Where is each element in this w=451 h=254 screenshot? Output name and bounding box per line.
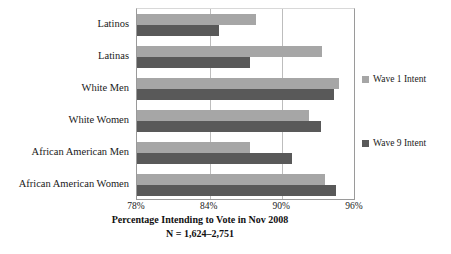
legend-swatch-wave-1-icon (362, 76, 369, 83)
category-label-latinos: Latinos (1, 18, 129, 29)
x-tick-90: 90% (273, 201, 290, 211)
bar-wave9-african-american-men (137, 153, 292, 164)
bar-wave9-latinos (137, 25, 219, 36)
legend-item-wave-1: Wave 1 Intent (362, 74, 426, 84)
legend-label-wave-9: Wave 9 Intent (373, 138, 426, 148)
category-label-african-american-women: African American Women (1, 178, 129, 189)
gridline-90 (282, 9, 283, 199)
category-axis-labels: Latinos Latinas White Men White Women Af… (0, 8, 133, 200)
category-label-african-american-men: African American Men (1, 146, 129, 157)
x-tick-96: 96% (345, 201, 362, 211)
category-label-white-men: White Men (1, 82, 129, 93)
x-tick-84: 84% (200, 201, 217, 211)
legend-label-wave-1: Wave 1 Intent (373, 74, 426, 84)
x-axis-title: Percentage Intending to Vote in Nov 2008 (40, 213, 360, 226)
bar-wave9-latinas (137, 57, 250, 68)
bar-wave1-latinos (137, 14, 256, 25)
bar-wave1-african-american-men (137, 142, 250, 153)
bar-wave1-white-women (137, 110, 309, 121)
legend-swatch-wave-9-icon (362, 140, 369, 147)
x-tick-78: 78% (127, 201, 144, 211)
category-label-latinas: Latinas (1, 50, 129, 61)
bar-wave1-white-men (137, 78, 339, 89)
plot-area (136, 8, 355, 200)
gridline-84 (210, 9, 211, 199)
bar-wave1-african-american-women (137, 174, 325, 185)
bar-wave9-white-men (137, 89, 334, 100)
category-label-white-women: White Women (1, 114, 129, 125)
chart-legend: Wave 1 Intent Wave 9 Intent (362, 8, 450, 200)
bar-wave1-latinas (137, 46, 322, 57)
bar-wave9-white-women (137, 121, 321, 132)
sample-size-note: N = 1,624–2,751 (40, 227, 360, 240)
bar-chart: Latinos Latinas White Men White Women Af… (0, 0, 451, 254)
legend-item-wave-9: Wave 9 Intent (362, 138, 426, 148)
bar-wave9-african-american-women (137, 185, 336, 196)
